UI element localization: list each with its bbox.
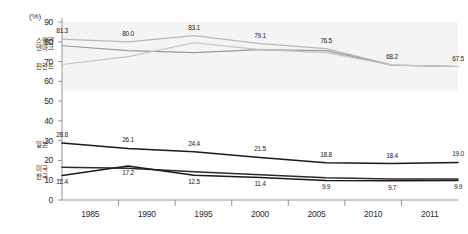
y-axis-tick-label: 50 (33, 96, 53, 106)
data-point-label: 17.2 (115, 169, 141, 176)
data-point-label: 9.7 (379, 184, 405, 191)
data-point-label: 26.1 (115, 136, 141, 143)
chart-canvas (0, 0, 468, 234)
data-point-label: 24.4 (181, 140, 207, 147)
data-point-label: 68.2 (379, 53, 405, 60)
y-axis-tick-label: 90 (33, 17, 53, 27)
x-axis-tick-label: 2010 (353, 209, 393, 219)
data-point-label: 9.9 (445, 183, 468, 190)
data-point-label: 18.4 (379, 152, 405, 159)
x-axis-tick-label: 1990 (127, 209, 167, 219)
series-name-label: 덴마크 (36, 42, 53, 52)
data-point-label: 28.8 (49, 131, 75, 138)
line-chart: (%) 010203040506070809019851990199520002… (0, 0, 468, 234)
series-name-label: 한국 (36, 171, 48, 181)
y-axis-tick-label: 0 (33, 195, 53, 205)
data-point-label: 81.3 (49, 27, 75, 34)
data-point-label: 18.8 (313, 151, 339, 158)
series-name-label: 일본 (36, 139, 48, 149)
data-point-label: 83.1 (181, 24, 207, 31)
data-point-label: 80.0 (115, 30, 141, 37)
data-point-label: 21.5 (247, 145, 273, 152)
y-axis-tick-label: 60 (33, 76, 53, 86)
series-name-label: 핀란드 (36, 61, 53, 71)
data-point-label: 76.5 (313, 37, 339, 44)
data-point-label: 11.4 (247, 180, 273, 187)
x-axis-tick-label: 2000 (240, 209, 280, 219)
x-axis-tick-label: 1985 (70, 209, 110, 219)
data-point-label: 9.9 (313, 183, 339, 190)
x-axis-tick-label: 2005 (297, 209, 337, 219)
data-point-label: 67.5 (445, 55, 468, 62)
data-point-label: 12.4 (49, 178, 75, 185)
x-axis-tick-label: 2011 (410, 209, 450, 219)
data-point-label: 19.0 (445, 150, 468, 157)
x-axis-tick-label: 1995 (183, 209, 223, 219)
data-point-label: 79.1 (247, 32, 273, 39)
y-axis-tick-label: 40 (33, 116, 53, 126)
data-point-label: 12.5 (181, 178, 207, 185)
